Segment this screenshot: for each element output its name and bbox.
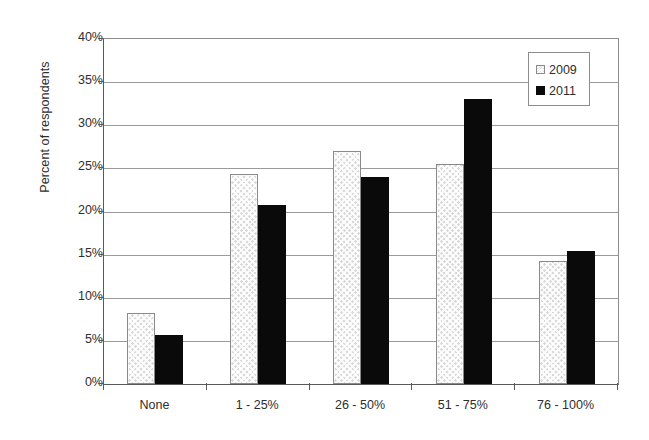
- x-tick-mark: [206, 383, 207, 390]
- bar-group: [207, 39, 310, 384]
- x-tick-mark: [514, 383, 515, 390]
- y-tick-label: 20%: [55, 203, 103, 217]
- bar-2011-1-25: [258, 205, 286, 384]
- x-tick-mark: [617, 383, 618, 390]
- legend-item-2011: 2011: [536, 80, 589, 101]
- x-axis-label: 1 - 25%: [206, 398, 309, 412]
- bar-2009-26-50: [333, 151, 361, 384]
- bar-2011-None: [155, 335, 183, 384]
- y-tick-label: 0%: [55, 375, 103, 389]
- y-tick-label: 10%: [55, 289, 103, 303]
- legend-swatch-2011-icon: [536, 86, 545, 95]
- x-axis-labels: None1 - 25%26 - 50%51 - 75%76 - 100%: [103, 398, 617, 412]
- bar-2009-1-25: [230, 174, 258, 384]
- y-tick-label: 40%: [55, 30, 103, 44]
- x-tick-mark: [309, 383, 310, 390]
- y-tick-label: 15%: [55, 246, 103, 260]
- bar-2011-51-75: [464, 99, 492, 384]
- x-axis-label: 26 - 50%: [309, 398, 412, 412]
- legend: 2009 2011: [528, 52, 590, 106]
- legend-label-2009: 2009: [549, 63, 577, 77]
- legend-swatch-2009-icon: [536, 65, 545, 74]
- bar-2009-None: [127, 313, 155, 384]
- bar-2009-51-75: [436, 164, 464, 384]
- x-tick-mark: [103, 383, 104, 390]
- y-tick-label: 5%: [55, 332, 103, 346]
- bar-2011-76-100: [567, 251, 595, 384]
- bar-group: [310, 39, 413, 384]
- y-tick-label: 25%: [55, 159, 103, 173]
- bar-group: [412, 39, 515, 384]
- x-axis-label: 51 - 75%: [411, 398, 514, 412]
- x-axis-label: None: [103, 398, 206, 412]
- legend-label-2011: 2011: [549, 84, 576, 98]
- bar-chart: Percent of respondents 0%5%10%15%20%25%3…: [0, 0, 649, 440]
- y-axis-title: Percent of respondents: [38, 27, 52, 227]
- x-axis-label: 76 - 100%: [514, 398, 617, 412]
- bar-group: [104, 39, 207, 384]
- y-tick-label: 30%: [55, 116, 103, 130]
- bar-2011-26-50: [361, 177, 389, 384]
- y-tick-label: 35%: [55, 73, 103, 87]
- x-tick-mark: [411, 383, 412, 390]
- legend-item-2009: 2009: [536, 59, 589, 80]
- bar-2009-76-100: [539, 261, 567, 384]
